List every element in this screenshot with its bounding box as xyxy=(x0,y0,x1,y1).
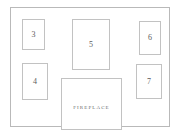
unit-label-7: 7 xyxy=(147,78,151,86)
unit-rect-7[interactable]: 7 xyxy=(136,64,162,99)
unit-label-3: 3 xyxy=(32,31,36,39)
unit-rect-6[interactable]: 6 xyxy=(139,21,161,55)
floor-plan-diagram: 3 4 5 6 7 FIREPLACE xyxy=(0,0,180,137)
unit-rect-4[interactable]: 4 xyxy=(22,63,48,100)
unit-label-6: 6 xyxy=(148,34,152,42)
fireplace-label: FIREPLACE xyxy=(73,105,110,110)
fireplace-rect[interactable]: FIREPLACE xyxy=(61,78,122,130)
unit-rect-3[interactable]: 3 xyxy=(22,19,45,50)
unit-rect-5[interactable]: 5 xyxy=(72,19,110,70)
unit-label-4: 4 xyxy=(33,78,37,86)
unit-label-5: 5 xyxy=(89,41,93,49)
